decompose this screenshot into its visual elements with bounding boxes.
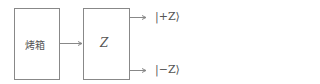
output-plus-z-label: |+Z⟩ xyxy=(155,10,180,23)
output-minus-z-label: |−Z⟩ xyxy=(155,63,180,76)
